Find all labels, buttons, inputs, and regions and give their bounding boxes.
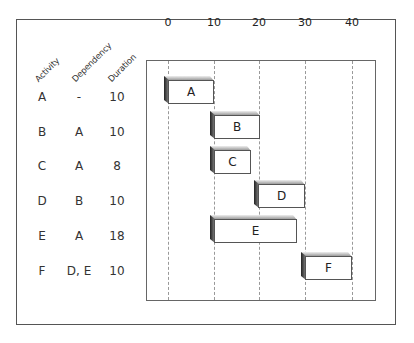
cell-dependency: A bbox=[75, 125, 83, 139]
gantt-bar-c: C bbox=[210, 146, 251, 174]
cell-duration: 10 bbox=[109, 90, 124, 104]
x-tick-40: 40 bbox=[345, 16, 359, 29]
bar-label: D bbox=[258, 184, 305, 208]
cell-duration: 10 bbox=[109, 125, 124, 139]
x-tick-10: 10 bbox=[207, 16, 221, 29]
cell-duration: 18 bbox=[109, 229, 124, 243]
cell-dependency: - bbox=[77, 90, 81, 104]
cell-activity: C bbox=[38, 159, 46, 173]
bar-label: B bbox=[214, 115, 260, 139]
cell-dependency: A bbox=[75, 159, 83, 173]
cell-dependency: A bbox=[75, 229, 83, 243]
gantt-bar-a: A bbox=[164, 76, 214, 104]
x-tick-20: 20 bbox=[252, 16, 266, 29]
bar-label: A bbox=[168, 80, 214, 104]
gantt-bar-b: B bbox=[210, 111, 260, 139]
x-tick-30: 30 bbox=[298, 16, 312, 29]
bar-label: E bbox=[214, 219, 297, 243]
cell-activity: B bbox=[38, 125, 46, 139]
gantt-bar-f: F bbox=[301, 252, 352, 280]
bar-label: C bbox=[214, 150, 251, 174]
gridline bbox=[352, 61, 353, 300]
cell-activity: E bbox=[38, 229, 46, 243]
gantt-bar-e: E bbox=[210, 215, 297, 243]
cell-dependency: D, E bbox=[67, 264, 91, 278]
cell-activity: F bbox=[39, 264, 46, 278]
x-tick-0: 0 bbox=[165, 16, 172, 29]
bar-label: F bbox=[305, 256, 352, 280]
cell-dependency: B bbox=[75, 194, 83, 208]
gantt-bar-d: D bbox=[254, 180, 305, 208]
cell-duration: 10 bbox=[109, 194, 124, 208]
cell-activity: D bbox=[37, 194, 46, 208]
cell-duration: 8 bbox=[113, 159, 121, 173]
cell-activity: A bbox=[38, 90, 46, 104]
cell-duration: 10 bbox=[109, 264, 124, 278]
gridline bbox=[214, 61, 215, 300]
